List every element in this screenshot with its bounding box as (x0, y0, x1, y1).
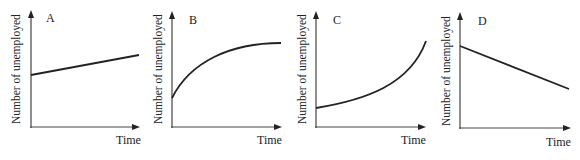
x-axis-label: Time (257, 134, 282, 146)
x-axis-label: Time (116, 134, 141, 146)
x-axis-arrow-icon (274, 124, 282, 130)
panel-letter: D (478, 15, 487, 27)
y-axis-arrow-icon (457, 12, 463, 20)
y-axis-arrow-icon (28, 10, 34, 18)
y-axis-label: Number of unemployed (440, 16, 452, 126)
x-axis-label: Time (401, 134, 426, 146)
panel-letter: C (333, 14, 341, 26)
chart-panel-c: C Number of unemployed Time (290, 0, 435, 160)
panel-letter: B (189, 14, 197, 26)
curve-c (316, 41, 426, 108)
x-axis-arrow-icon (132, 124, 140, 130)
chart-panel-a: A Number of unemployed Time (0, 0, 145, 160)
curve-d (460, 46, 569, 89)
y-axis-label: Number of unemployed (296, 14, 308, 124)
y-axis-arrow-icon (169, 11, 175, 19)
y-axis-label: Number of unemployed (10, 14, 22, 124)
x-axis-arrow-icon (563, 125, 571, 131)
chart-panel-d: D Number of unemployed Time (435, 0, 580, 160)
chart-panel-b: B Number of unemployed Time (145, 0, 290, 160)
curve-a (31, 55, 139, 75)
panel-letter: A (46, 12, 55, 24)
y-axis-arrow-icon (313, 11, 319, 19)
y-axis-label: Number of unemployed (152, 14, 164, 124)
curve-b (172, 43, 281, 98)
x-axis-arrow-icon (418, 124, 426, 130)
x-axis-label: Time (546, 136, 571, 148)
